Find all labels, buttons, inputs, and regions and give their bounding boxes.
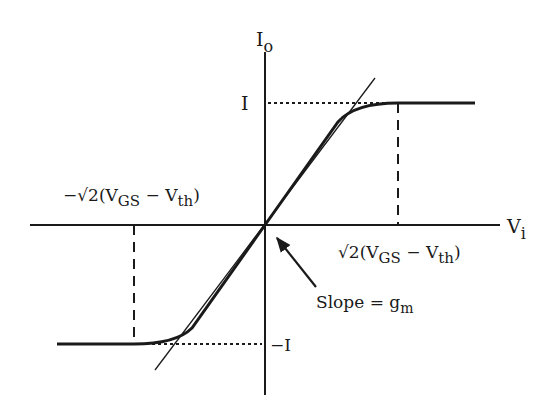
y-axis-label: Io [256,28,273,56]
positive-level-label: I [241,92,249,114]
slope-annotation: Slope = gm [316,292,413,316]
right-breakpoint-label: √2(VGS − Vth) [338,242,461,267]
negative-level-label: −I [270,335,291,355]
left-breakpoint-label: −√2(VGS − Vth) [63,185,200,210]
transfer-characteristic-diagram: Io Vi I −I √2(VGS − Vth) −√2(VGS − Vth) … [0,0,552,410]
x-axis-label: Vi [506,215,526,243]
slope-arrow [277,238,316,287]
